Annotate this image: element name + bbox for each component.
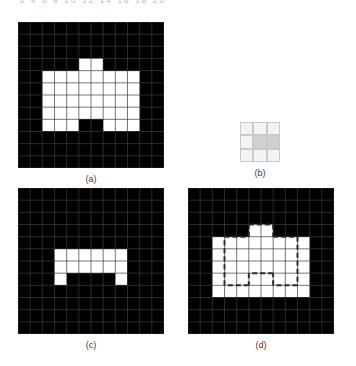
pixel-cell bbox=[297, 224, 309, 236]
pixel-cell bbox=[91, 119, 103, 131]
pixel-cell bbox=[115, 261, 127, 273]
pixel-cell bbox=[249, 200, 261, 212]
pixel-cell bbox=[273, 237, 285, 249]
pixel-cell bbox=[322, 249, 334, 261]
pixel-cell bbox=[103, 46, 115, 58]
pixel-cell bbox=[91, 46, 103, 58]
pixel-cell bbox=[30, 297, 42, 309]
pixel-cell bbox=[18, 212, 30, 224]
pixel-cell bbox=[224, 237, 236, 249]
pixel-cell bbox=[30, 237, 42, 249]
pixel-cell bbox=[30, 46, 42, 58]
pixel-cell bbox=[18, 144, 30, 156]
pixel-cell bbox=[91, 285, 103, 297]
pixel-cell bbox=[127, 156, 139, 168]
pixel-cell bbox=[310, 188, 322, 200]
pixel-cell bbox=[310, 261, 322, 273]
pixel-cell bbox=[91, 273, 103, 285]
figure-root: 2 4 6 8 10 12 14 16 18 20 (a) (b) (c) (d… bbox=[0, 0, 356, 366]
pixel-cell bbox=[249, 249, 261, 261]
pixel-cell bbox=[152, 310, 164, 322]
pixel-cell bbox=[42, 188, 54, 200]
pixel-cell bbox=[322, 322, 334, 334]
pixel-cell bbox=[127, 46, 139, 58]
pixel-cell bbox=[285, 212, 297, 224]
pixel-cell bbox=[152, 285, 164, 297]
pixel-cell bbox=[54, 212, 66, 224]
pixel-cell bbox=[273, 200, 285, 212]
pixel-cell bbox=[152, 200, 164, 212]
pixel-cell bbox=[42, 83, 54, 95]
pixel-cell bbox=[127, 188, 139, 200]
pixel-cell bbox=[91, 188, 103, 200]
pixel-cell bbox=[67, 58, 79, 70]
panel-b: (b) bbox=[240, 122, 280, 162]
pixel-cell bbox=[212, 249, 224, 261]
pixel-cell bbox=[297, 273, 309, 285]
pixel-cell bbox=[127, 322, 139, 334]
pixel-cell bbox=[91, 224, 103, 236]
pixel-cell bbox=[18, 107, 30, 119]
pixel-cell bbox=[18, 22, 30, 34]
pixel-cell bbox=[91, 261, 103, 273]
pixel-cell bbox=[115, 107, 127, 119]
pixel-cell bbox=[79, 58, 91, 70]
pixel-cell bbox=[54, 237, 66, 249]
pixel-cell bbox=[42, 95, 54, 107]
pixel-cell bbox=[54, 144, 66, 156]
pixel-cell bbox=[273, 297, 285, 309]
pixel-cell bbox=[140, 224, 152, 236]
pixel-cell bbox=[30, 310, 42, 322]
pixel-cell bbox=[140, 156, 152, 168]
pixel-matrix bbox=[188, 188, 334, 334]
pixel-cell bbox=[140, 297, 152, 309]
se-cell-active bbox=[253, 135, 266, 148]
pixel-cell bbox=[212, 188, 224, 200]
pixel-cell bbox=[54, 188, 66, 200]
pixel-cell bbox=[152, 156, 164, 168]
pixel-cell bbox=[224, 200, 236, 212]
pixel-cell bbox=[310, 249, 322, 261]
pixel-cell bbox=[297, 200, 309, 212]
pixel-cell bbox=[285, 285, 297, 297]
pixel-cell bbox=[103, 322, 115, 334]
pixel-cell bbox=[188, 249, 200, 261]
pixel-cell bbox=[54, 285, 66, 297]
pixel-cell bbox=[91, 156, 103, 168]
pixel-cell bbox=[42, 131, 54, 143]
pixel-cell bbox=[188, 237, 200, 249]
pixel-cell bbox=[127, 285, 139, 297]
pixel-cell bbox=[285, 188, 297, 200]
pixel-cell bbox=[237, 224, 249, 236]
pixel-cell bbox=[18, 34, 30, 46]
pixel-cell bbox=[30, 261, 42, 273]
pixel-cell bbox=[152, 34, 164, 46]
pixel-cell bbox=[224, 297, 236, 309]
pixel-cell bbox=[188, 261, 200, 273]
pixel-cell bbox=[18, 71, 30, 83]
pixel-cell bbox=[297, 297, 309, 309]
pixel-cell bbox=[224, 188, 236, 200]
pixel-cell bbox=[322, 212, 334, 224]
pixel-cell bbox=[42, 249, 54, 261]
pixel-cell bbox=[273, 285, 285, 297]
pixel-cell bbox=[152, 188, 164, 200]
panel-c: (c) bbox=[18, 188, 164, 334]
pixel-cell bbox=[310, 273, 322, 285]
pixel-cell bbox=[310, 237, 322, 249]
pixel-cell bbox=[30, 22, 42, 34]
pixel-cell bbox=[237, 188, 249, 200]
pixel-cell bbox=[249, 261, 261, 273]
pixel-cell bbox=[103, 144, 115, 156]
pixel-cell bbox=[212, 273, 224, 285]
pixel-cell bbox=[79, 249, 91, 261]
pixel-cell bbox=[310, 212, 322, 224]
pixel-cell bbox=[140, 71, 152, 83]
pixel-cell bbox=[67, 322, 79, 334]
header-number-strip: 2 4 6 8 10 12 14 16 18 20 bbox=[0, 0, 356, 8]
pixel-cell bbox=[18, 261, 30, 273]
pixel-cell bbox=[127, 261, 139, 273]
pixel-cell bbox=[79, 200, 91, 212]
pixel-cell bbox=[54, 249, 66, 261]
pixel-cell bbox=[54, 261, 66, 273]
